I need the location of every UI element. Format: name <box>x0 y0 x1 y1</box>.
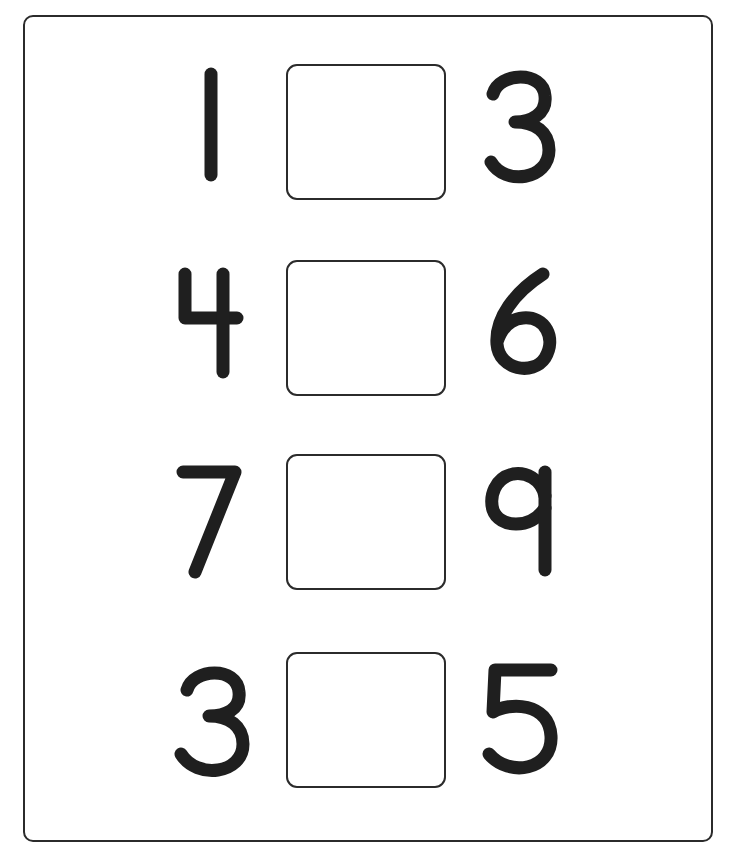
left-number: 7 <box>165 452 255 592</box>
left-number: 1 <box>165 62 255 202</box>
left-number: 3 <box>165 650 255 790</box>
sequence-row-3: 7 9 <box>0 452 737 592</box>
sequence-row-2: 4 6 <box>0 258 737 398</box>
right-number: 6 <box>475 258 565 398</box>
left-number: 4 <box>165 258 255 398</box>
answer-box[interactable] <box>286 64 446 200</box>
sequence-row-4: 3 5 <box>0 650 737 790</box>
answer-box[interactable] <box>286 652 446 788</box>
right-number: 9 <box>475 452 565 592</box>
sequence-row-1: 1 3 <box>0 62 737 202</box>
right-number: 5 <box>475 650 565 790</box>
right-number: 3 <box>475 62 565 202</box>
answer-box[interactable] <box>286 260 446 396</box>
answer-box[interactable] <box>286 454 446 590</box>
